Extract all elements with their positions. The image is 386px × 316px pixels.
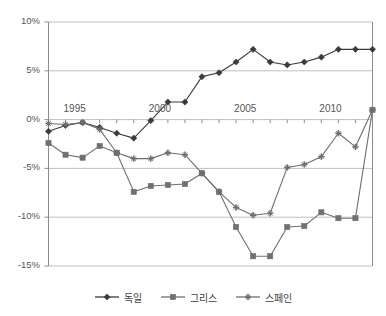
data-point-marker: [267, 210, 273, 216]
legend-label: 독일: [124, 290, 142, 305]
x-axis-tick-label: 2010: [319, 103, 341, 114]
data-point-marker: [182, 152, 188, 158]
data-point-marker: [233, 224, 238, 229]
data-point-marker: [284, 62, 290, 68]
data-point-marker: [131, 155, 137, 161]
data-point-marker: [199, 74, 205, 80]
data-point-marker: [80, 155, 85, 160]
legend-label: 스페인: [265, 290, 292, 305]
data-point-marker: [114, 150, 120, 156]
data-point-marker: [96, 126, 102, 132]
data-point-marker: [216, 189, 222, 195]
legend-item-1[interactable]: 독일: [94, 290, 142, 305]
data-point-marker: [319, 210, 324, 215]
legend-label: 그리스: [190, 290, 217, 305]
data-point-marker: [268, 254, 273, 259]
y-axis-tick-label: -5%: [6, 161, 40, 172]
data-point-marker: [352, 46, 358, 52]
data-point-marker: [335, 46, 341, 52]
legend-marker-cross-icon: [235, 291, 261, 303]
data-point-marker: [45, 120, 51, 126]
data-point-marker: [369, 46, 375, 52]
data-point-marker: [97, 143, 102, 148]
data-point-marker: [62, 121, 68, 127]
data-point-marker: [165, 150, 171, 156]
data-point-marker: [336, 216, 341, 221]
data-point-marker: [114, 130, 120, 136]
series-3: [45, 107, 375, 219]
data-point-marker: [318, 54, 324, 60]
data-point-marker: [251, 254, 256, 259]
data-point-marker: [46, 140, 51, 145]
data-point-marker: [245, 294, 251, 300]
data-point-marker: [301, 161, 307, 167]
y-axis-tick-label: 5%: [6, 64, 40, 75]
x-axis-tick-label: 1995: [64, 103, 86, 114]
y-axis-tick-label: -15%: [6, 259, 40, 270]
data-point-marker: [45, 128, 51, 134]
series-line: [49, 49, 373, 138]
y-axis-tick-label: 10%: [6, 15, 40, 26]
data-point-marker: [182, 181, 187, 186]
legend-item-3[interactable]: 스페인: [235, 290, 292, 305]
data-point-marker: [165, 182, 170, 187]
data-point-marker: [301, 59, 307, 65]
line-chart-plot: [0, 0, 386, 316]
data-point-marker: [199, 170, 205, 176]
data-point-marker: [353, 216, 358, 221]
legend-marker-diamond-icon: [94, 291, 120, 303]
x-axis-tick-label: 2000: [149, 103, 171, 114]
series-line: [49, 110, 373, 215]
y-axis-tick-label: 0%: [6, 113, 40, 124]
data-point-marker: [79, 119, 85, 125]
y-axis-tick-label: -10%: [6, 210, 40, 221]
data-point-marker: [352, 144, 358, 150]
data-point-marker: [148, 155, 154, 161]
data-point-marker: [63, 152, 68, 157]
data-point-marker: [131, 189, 136, 194]
data-point-marker: [318, 153, 324, 159]
data-point-marker: [369, 107, 375, 113]
x-axis-tick-label: 2005: [234, 103, 256, 114]
legend-item-2[interactable]: 그리스: [160, 290, 217, 305]
data-point-marker: [233, 204, 239, 210]
data-point-marker: [335, 130, 341, 136]
data-point-marker: [104, 294, 110, 300]
legend-marker-square-icon: [160, 291, 186, 303]
data-point-marker: [148, 183, 153, 188]
data-point-marker: [250, 212, 256, 218]
chart-legend: 독일그리스스페인: [0, 286, 386, 308]
data-point-marker: [284, 164, 290, 170]
data-point-marker: [170, 294, 175, 299]
data-point-marker: [182, 99, 188, 105]
data-point-marker: [285, 224, 290, 229]
chart-container: 10%5%0%-5%-10%-15% 1995200020052010 독일그리…: [0, 0, 386, 316]
data-point-marker: [302, 223, 307, 228]
